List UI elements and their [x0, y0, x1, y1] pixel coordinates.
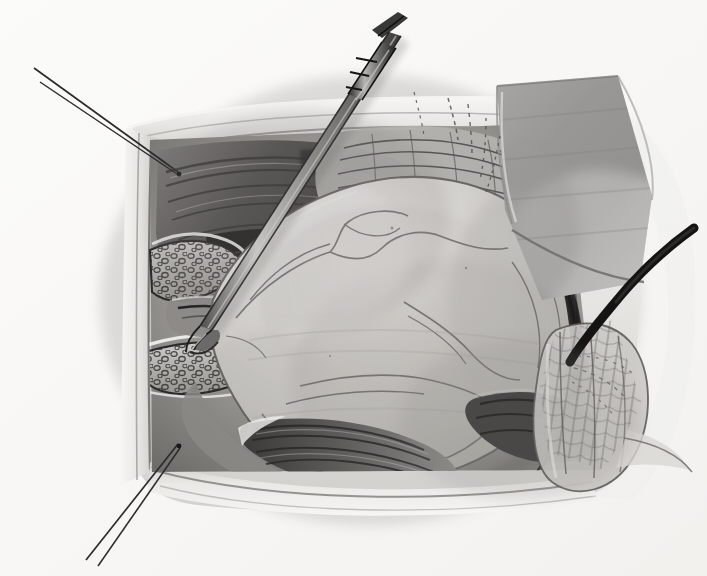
illustration-canvas: Sterile drape framing the operative wind…: [0, 0, 707, 576]
surgical-illustration: Sterile drape framing the operative wind…: [0, 0, 707, 576]
